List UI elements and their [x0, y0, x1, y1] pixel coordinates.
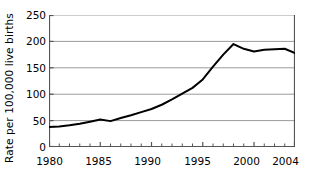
x-tick-label-1980: 1980 [35, 156, 64, 167]
x-tick-label-1990: 1990 [133, 156, 162, 167]
line-chart: Rate per 100,000 live births 250 200 150… [0, 0, 310, 176]
x-tick-label-1995: 1995 [183, 156, 212, 167]
x-tick-label-2004: 2004 [271, 156, 300, 167]
x-tick-label-2000: 2000 [232, 156, 261, 167]
x-axis-tick-labels: 1980 1985 1990 1995 2000 2004 [0, 0, 310, 176]
x-tick-label-1985: 1985 [84, 156, 113, 167]
